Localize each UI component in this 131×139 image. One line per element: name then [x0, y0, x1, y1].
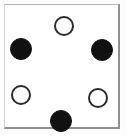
node-lower-left[interactable]: [11, 85, 31, 105]
diagram-canvas: [0, 0, 131, 139]
node-upper-left[interactable]: [10, 38, 32, 60]
diagram-frame: [4, 4, 120, 129]
node-top[interactable]: [54, 16, 74, 36]
node-lower-right[interactable]: [88, 88, 108, 108]
node-bottom[interactable]: [50, 110, 72, 132]
canvas-right-margin: [127, 0, 131, 139]
node-layer: [5, 5, 118, 127]
node-upper-right[interactable]: [91, 39, 113, 61]
canvas-bottom-margin: [0, 135, 131, 139]
